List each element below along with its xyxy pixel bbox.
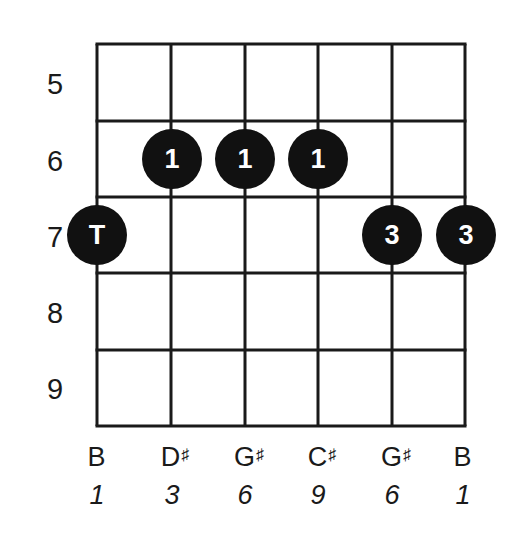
string-note: B [67, 440, 127, 472]
finger-dot: 1 [142, 129, 202, 189]
finger-dot-tonic: T [67, 205, 127, 265]
finger-dot: 3 [362, 205, 422, 265]
string-interval: 6 [215, 480, 275, 510]
finger-dot: 3 [436, 205, 496, 265]
string-note: C♯ [292, 440, 352, 472]
string-note: G♯ [219, 440, 279, 472]
string-interval: 9 [288, 480, 348, 510]
chord-diagram: 5 6 7 8 9 T 1 1 1 3 3 B D♯ G♯ C♯ G♯ B 1 … [0, 0, 515, 554]
string-interval: 1 [433, 480, 493, 510]
fret-number-9: 9 [35, 374, 75, 404]
finger-dot: 1 [215, 129, 275, 189]
fret-number-8: 8 [35, 298, 75, 328]
fret-number-5: 5 [35, 69, 75, 99]
string-note: G♯ [366, 440, 426, 472]
string-note: B [433, 440, 493, 472]
fret-number-6: 6 [35, 146, 75, 176]
string-interval: 6 [362, 480, 422, 510]
string-interval: 1 [67, 480, 127, 510]
string-interval: 3 [142, 480, 202, 510]
string-note: D♯ [145, 440, 205, 472]
finger-dot: 1 [288, 129, 348, 189]
